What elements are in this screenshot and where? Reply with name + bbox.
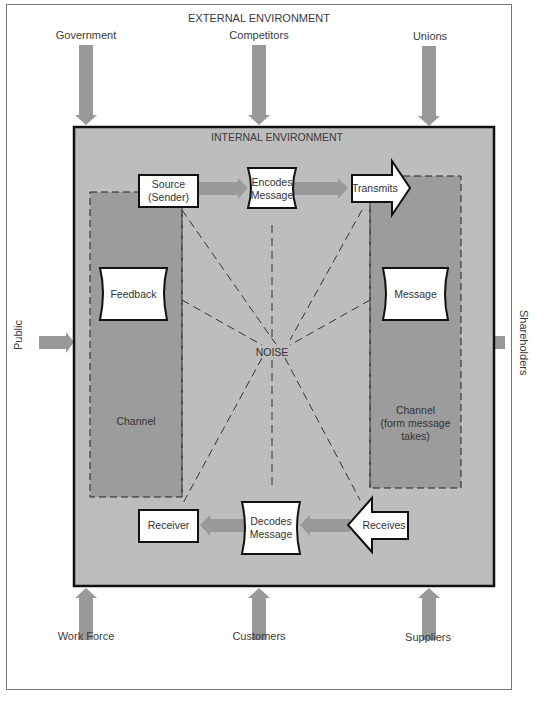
receiver-label: Receiver <box>139 519 198 532</box>
source-line2: (Sender) <box>139 191 198 204</box>
channel-right-line3: takes) <box>370 430 461 443</box>
channel-right-line2: (form message <box>370 417 461 430</box>
decodes-line1: Decodes <box>242 515 300 528</box>
label-unions: Unions <box>413 30 447 42</box>
label-work-force: Work Force <box>58 630 115 642</box>
receives-label: Receives <box>360 519 408 532</box>
channel-right-line1: Channel <box>370 404 461 417</box>
channel-left-label: Channel <box>90 415 182 428</box>
noise-label: NOISE <box>250 346 294 359</box>
channel-left <box>90 192 182 497</box>
decodes-line2: Message <box>242 528 300 541</box>
external-environment-title: EXTERNAL ENVIRONMENT <box>188 12 330 24</box>
feedback-label: Feedback <box>100 288 167 301</box>
source-label: Source (Sender) <box>139 178 198 204</box>
encodes-line1: Encodes <box>248 176 296 189</box>
label-customers: Customers <box>232 630 285 642</box>
encodes-line2: Message <box>248 189 296 202</box>
transmits-label: Transmits <box>352 182 392 195</box>
channel-right-label: Channel (form message takes) <box>370 404 461 443</box>
label-public: Public <box>12 320 24 350</box>
encodes-label: Encodes Message <box>248 176 296 202</box>
label-competitors: Competitors <box>229 29 288 41</box>
internal-environment-title: INTERNAL ENVIRONMENT <box>211 131 343 143</box>
decodes-label: Decodes Message <box>242 515 300 541</box>
message-label: Message <box>383 288 448 301</box>
label-shareholders: Shareholders <box>518 310 530 375</box>
label-suppliers: Suppliers <box>405 631 451 643</box>
label-government: Government <box>56 29 117 41</box>
source-line1: Source <box>139 178 198 191</box>
